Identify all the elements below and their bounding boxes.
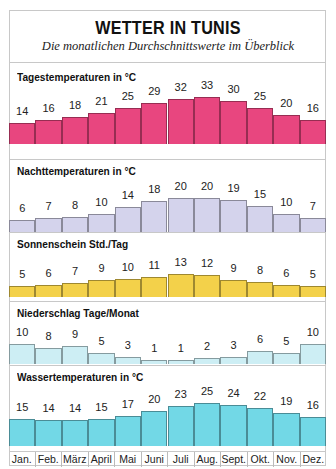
day-temperature-bar [273, 115, 299, 144]
month-label: März [62, 452, 89, 467]
month-label: Aug. [195, 452, 222, 467]
sunshine-value: 6 [35, 267, 61, 279]
night-temperature-label: Nachttemperaturen in °C [17, 165, 136, 177]
water-temperature-value: 15 [9, 401, 35, 413]
day-temperature-value: 25 [247, 90, 273, 102]
night-temperature-bar [9, 220, 35, 232]
day-temperature-bar [300, 120, 326, 144]
month-label: Nov. [274, 452, 301, 467]
water-temperature-bar [273, 413, 299, 446]
night-temperature-bar [168, 198, 194, 232]
night-temperature-bar [273, 214, 299, 233]
night-temperature-value: 14 [115, 189, 141, 201]
night-temperature-value: 8 [62, 199, 88, 211]
day-temperature-bar [194, 97, 220, 144]
sunshine-value: 12 [194, 257, 220, 269]
day-temperature-bar [35, 120, 61, 144]
precipitation-value: 1 [141, 342, 167, 354]
precipitation-value: 2 [194, 340, 220, 352]
sunshine-value: 7 [62, 265, 88, 277]
day-temperature-bar [220, 101, 246, 144]
water-temperature-bar [141, 411, 167, 446]
sunshine-bar [115, 279, 141, 298]
precipitation-value: 1 [168, 342, 194, 354]
night-temperature-bar [194, 198, 220, 232]
month-label: Sept. [221, 452, 248, 467]
sunshine-bar [300, 286, 326, 297]
water-temperature-value: 22 [247, 390, 273, 402]
sunshine-bar [9, 286, 35, 297]
precipitation-bar [220, 357, 246, 364]
precipitation-value: 8 [35, 330, 61, 342]
day-temperature-value: 32 [168, 81, 194, 93]
sunshine-bar [88, 280, 114, 297]
day-temperature-bar [168, 99, 194, 144]
night-temperature-bar [141, 201, 167, 232]
water-temperature-value: 16 [300, 399, 326, 411]
sunshine-bar [194, 275, 220, 297]
sunshine-bar [220, 280, 246, 297]
water-temperature-bar [115, 416, 141, 446]
precipitation-bar [273, 353, 299, 364]
night-temperature-value: 18 [141, 183, 167, 195]
precipitation-value: 10 [9, 326, 35, 338]
day-temperature-bar [115, 108, 141, 144]
water-temperature-bar [247, 408, 273, 446]
day-temperature-value: 21 [88, 95, 114, 107]
night-temperature-value: 20 [194, 180, 220, 192]
panel-divider [9, 232, 326, 233]
night-temperature-bar [88, 214, 114, 233]
water-temperature-bar [300, 417, 326, 446]
day-temperature-value: 25 [115, 90, 141, 102]
day-temperature-value: 33 [194, 79, 220, 91]
precipitation-bar [168, 360, 194, 364]
night-temperature-bar [62, 217, 88, 232]
night-temperature-bar [300, 218, 326, 232]
night-temperature-value: 10 [88, 196, 114, 208]
month-label: Okt. [248, 452, 275, 467]
precipitation-bar [35, 348, 61, 364]
sunshine-value: 13 [168, 256, 194, 268]
day-temperature-value: 18 [62, 99, 88, 111]
precipitation-bar [194, 358, 220, 364]
precipitation-bar [62, 346, 88, 364]
sunshine-value: 9 [220, 262, 246, 274]
precipitation-bar [141, 360, 167, 364]
sunshine-bar [62, 283, 88, 297]
precipitation-value: 3 [220, 339, 246, 351]
night-temperature-value: 7 [35, 200, 61, 212]
water-temperature-value: 20 [141, 393, 167, 405]
month-axis: Jan.Feb.MärzAprilMaiJuniJuliAug.Sept.Okt… [9, 451, 326, 467]
day-temperature-value: 30 [220, 83, 246, 95]
water-temperature-bar [168, 406, 194, 446]
precipitation-bar [247, 351, 273, 364]
water-temperature-value: 14 [62, 402, 88, 414]
sunshine-label: Sonnenschein Std./Tag [17, 238, 128, 250]
day-temperature-bar [62, 117, 88, 144]
night-temperature-bar [115, 207, 141, 232]
sunshine-value: 6 [273, 267, 299, 279]
night-temperature-bar [35, 218, 61, 232]
night-temperature-value: 7 [300, 200, 326, 212]
day-temperature-value: 16 [300, 102, 326, 114]
water-temperature-value: 25 [194, 385, 220, 397]
sunshine-bar [247, 282, 273, 297]
night-temperature-bar [247, 206, 273, 232]
sunshine-value: 5 [9, 268, 35, 280]
month-label: April [89, 452, 116, 467]
water-temperature-bar [88, 419, 114, 446]
day-temperature-value: 16 [35, 102, 61, 114]
day-temperature-bar [247, 108, 273, 144]
panel-divider [9, 365, 326, 366]
water-temperature-value: 14 [35, 402, 61, 414]
water-temperature-value: 17 [115, 398, 141, 410]
water-temperature-label: Wassertemperaturen in °C [17, 371, 143, 383]
day-temperature-bar [9, 123, 35, 144]
panel-divider [9, 301, 326, 302]
panel-divider [9, 159, 326, 160]
precipitation-value: 6 [247, 333, 273, 345]
page-subtitle: Die monatlichen Durchschnittswerte im Üb… [0, 39, 336, 54]
sunshine-bar [168, 274, 194, 297]
night-temperature-value: 19 [220, 182, 246, 194]
sunshine-value: 5 [300, 268, 326, 280]
